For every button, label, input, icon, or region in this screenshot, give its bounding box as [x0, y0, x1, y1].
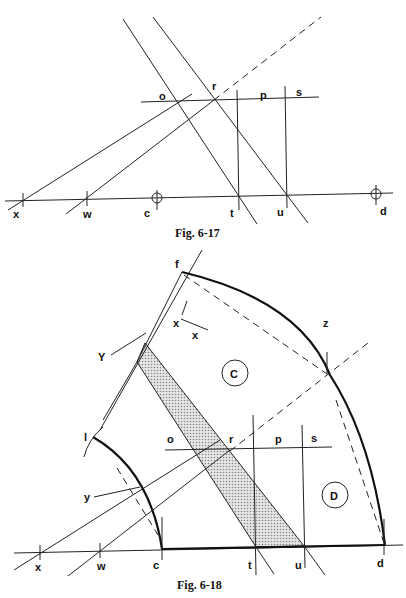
Y-arrow [111, 333, 146, 355]
region-c-label: C [230, 368, 238, 380]
figure-6-17: o r p s x w c t u d Fig. 6-17 [5, 17, 393, 240]
label-x: x [13, 208, 20, 220]
vertical-t [237, 90, 239, 210]
label-c: c [153, 559, 159, 571]
label-t: t [230, 207, 234, 219]
label-y: y [84, 491, 91, 503]
label-o: o [159, 90, 166, 102]
shaded-strip [137, 343, 304, 547]
center-mark-d [371, 185, 381, 205]
chord-z-d [336, 400, 384, 543]
caption-fig-6-18: Fig. 6-18 [177, 578, 222, 592]
baseline [5, 193, 393, 201]
diagram-canvas: o r p s x w c t u d Fig. 6-17 [0, 0, 406, 598]
label-z: z [323, 317, 329, 329]
label-s: s [311, 432, 317, 444]
diagonal-ext-1 [256, 547, 274, 574]
label-f: f [175, 258, 179, 270]
label-r: r [212, 80, 217, 92]
region-d-label: D [330, 490, 338, 502]
diagonal-1 [123, 19, 257, 224]
chord-f-z [184, 275, 327, 374]
line-w [68, 450, 230, 576]
outer-arc [182, 272, 385, 545]
label-o: o [167, 433, 174, 445]
axis-mark [181, 301, 208, 330]
label-c: c [144, 207, 150, 219]
label-x-small-1: x [173, 317, 180, 329]
label-r: r [229, 433, 234, 445]
horizontal-line [141, 97, 319, 102]
label-w: w [96, 560, 106, 572]
label-p: p [260, 89, 267, 101]
center-mark-c [152, 190, 162, 210]
vertical-u [285, 86, 287, 208]
label-u: u [295, 559, 302, 571]
label-t: t [248, 559, 252, 571]
label-w: w [82, 208, 92, 220]
y-leader [94, 487, 140, 497]
label-l: l [84, 431, 87, 443]
label-Y: Y [98, 351, 106, 363]
label-p: p [275, 433, 282, 445]
edge-lower [103, 362, 137, 420]
label-s: s [296, 86, 302, 98]
horizontal-line [165, 447, 332, 450]
caption-fig-6-17: Fig. 6-17 [175, 226, 220, 240]
label-u: u [277, 206, 284, 218]
label-x: x [35, 561, 42, 573]
diagonal-ext-2 [304, 546, 325, 575]
inner-arc [93, 437, 162, 549]
line-x [8, 94, 192, 210]
figure-6-18: x x C D f z Y l y o r p s x w c t u d Fi… [14, 250, 403, 592]
label-x-small-2: x [192, 329, 199, 341]
label-d: d [377, 557, 384, 569]
label-d: d [380, 205, 387, 217]
dashed-extension [214, 17, 321, 100]
diagonal-2 [153, 17, 308, 223]
